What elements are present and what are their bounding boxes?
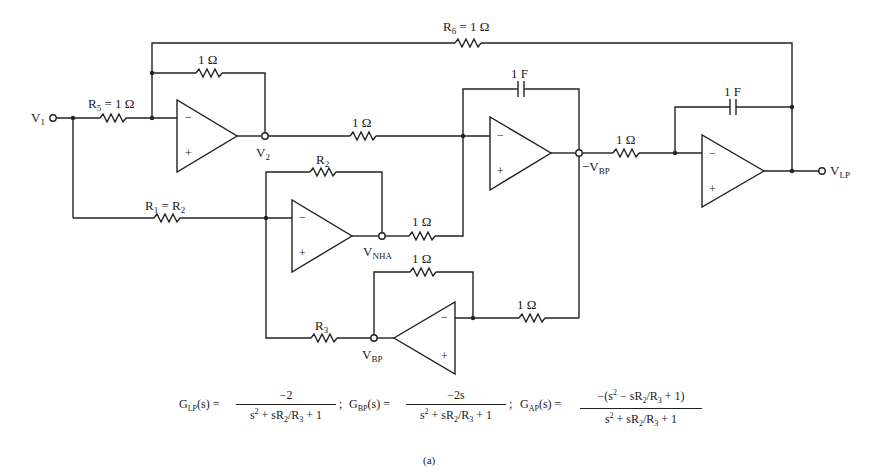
neg-vbp-node bbox=[576, 150, 582, 156]
resistor-r-v2 bbox=[350, 132, 376, 140]
resistor-r-nha bbox=[409, 232, 435, 240]
eq-gap-lhs: GAP(s) = bbox=[520, 398, 561, 413]
resistor-r5 bbox=[100, 114, 126, 122]
eq-glp-lhs: GLP(s) = bbox=[179, 398, 219, 413]
eq-gbp-sep: ; bbox=[509, 398, 512, 410]
opamp2-plus: + bbox=[497, 165, 504, 177]
label-r5: R5 = 1 Ω bbox=[88, 97, 134, 113]
vlp-terminal bbox=[819, 168, 825, 174]
label-vlp: VLP bbox=[830, 164, 850, 180]
v2-node bbox=[262, 133, 268, 139]
label-neg-vbp: −VBP bbox=[582, 160, 610, 176]
resistor-r3 bbox=[311, 334, 337, 342]
label-v2: V2 bbox=[256, 146, 270, 162]
resistor-r6 bbox=[455, 39, 481, 47]
label-r2: R2 bbox=[316, 153, 329, 169]
eq-gbp-lhs: GBP(s) = bbox=[349, 398, 390, 413]
label-v1: V1 bbox=[31, 111, 45, 127]
r6-feedback-path bbox=[152, 39, 792, 171]
vbp-node bbox=[371, 335, 377, 341]
label-r-nha: 1 Ω bbox=[412, 215, 431, 228]
opamp2-minus: − bbox=[497, 129, 504, 141]
label-vbp: VBP bbox=[362, 348, 382, 364]
opamp1-plus: + bbox=[185, 147, 192, 159]
eq-glp-fraction: −2 s2 + sR2/R3 + 1 bbox=[236, 389, 336, 424]
resistor-rf5 bbox=[410, 268, 436, 276]
resistor-r-bp bbox=[613, 149, 639, 157]
opamp1-minus: − bbox=[185, 111, 192, 123]
opamp4-plus: + bbox=[709, 183, 716, 195]
vnha-node bbox=[379, 233, 385, 239]
label-rf5: 1 Ω bbox=[412, 252, 431, 265]
resistor-r-in5 bbox=[519, 314, 545, 322]
label-r-bp: 1 Ω bbox=[616, 133, 635, 146]
label-c1: 1 F bbox=[511, 67, 528, 80]
eq-gbp-fraction: −2s s2 + sR2/R3 + 1 bbox=[406, 389, 506, 424]
opamp5-minus: − bbox=[441, 311, 448, 323]
label-r-v2: 1 Ω bbox=[352, 116, 371, 129]
opamp4-minus: − bbox=[709, 147, 716, 159]
opamp3-minus: − bbox=[299, 211, 306, 223]
input-stage bbox=[50, 71, 177, 218]
resistor-r1 bbox=[154, 214, 180, 222]
resistor-r2 bbox=[310, 168, 336, 176]
v1-terminal bbox=[50, 115, 56, 121]
opamp5-plus: + bbox=[441, 350, 448, 362]
label-vnha: VNHA bbox=[363, 245, 392, 261]
resistor-rf1 bbox=[196, 69, 222, 77]
label-r1: R1 = R2 bbox=[145, 199, 185, 215]
label-r3: R3 bbox=[315, 319, 328, 335]
opamp3-plus: + bbox=[299, 247, 306, 259]
label-c2: 1 F bbox=[724, 85, 741, 98]
eq-gap-fraction: −(s2 − sR2/R3 + 1) s2 + sR2/R3 + 1 bbox=[580, 389, 702, 428]
figure-caption: (a) bbox=[423, 454, 435, 466]
label-r-in5: 1 Ω bbox=[517, 298, 536, 311]
label-r6: R6 = 1 Ω bbox=[443, 20, 489, 36]
eq-glp-sep: ; bbox=[339, 398, 342, 410]
label-rf1: 1 Ω bbox=[198, 53, 217, 66]
